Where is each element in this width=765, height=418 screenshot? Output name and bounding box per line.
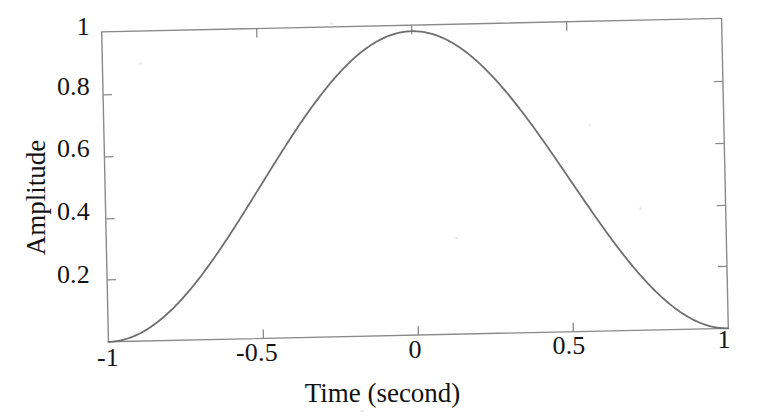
- x-tick-label-0: 0: [392, 337, 438, 363]
- y-axis-ticks: [103, 81, 727, 279]
- y-tick-label-1: 1: [40, 14, 90, 40]
- plot-frame-box: [102, 18, 729, 341]
- x-tick-label-0.5: 0.5: [533, 333, 605, 359]
- x-axis-ticks: [257, 22, 574, 339]
- x-tick-label--0.5: -0.5: [221, 340, 293, 366]
- y-axis-title: Amplitude: [14, 110, 54, 280]
- data-series-line: [102, 24, 728, 341]
- figure-canvas: 1 0.8 0.6 0.4 0.2 -1 -0.5 0 0.5 1 Time (…: [0, 0, 765, 418]
- x-axis-title: Time (second): [0, 378, 765, 409]
- y-axis-title-text: Amplitude: [21, 118, 52, 278]
- x-tick-label--1: -1: [85, 345, 131, 371]
- y-tick-label-0.8: 0.8: [20, 74, 90, 100]
- x-tick-label-1: 1: [701, 327, 747, 353]
